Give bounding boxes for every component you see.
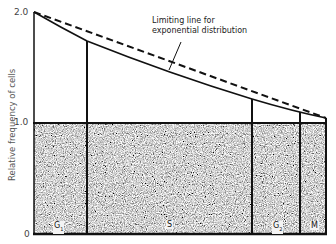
chart-plot	[0, 0, 336, 244]
phase-label-m: M	[310, 221, 319, 230]
stippled-region	[34, 123, 326, 234]
cell-cycle-chart: 2.0 1.0 0 Relative frequency of cells Li…	[0, 0, 336, 244]
annotation-line-1: Limiting line for	[152, 16, 247, 26]
phase-label-g1: G1	[53, 221, 64, 234]
annotation-text: Limiting line for exponential distributi…	[152, 16, 247, 36]
phase-label-g2: G2	[272, 221, 283, 234]
y-tick-2: 2.0	[14, 8, 28, 17]
phase-label-s: S	[166, 220, 173, 229]
annotation-line-2: exponential distribution	[152, 26, 247, 36]
y-axis-label: Relative frequency of cells	[7, 81, 17, 181]
annotation-pointer	[169, 42, 181, 70]
y-tick-0: 0	[24, 230, 30, 239]
